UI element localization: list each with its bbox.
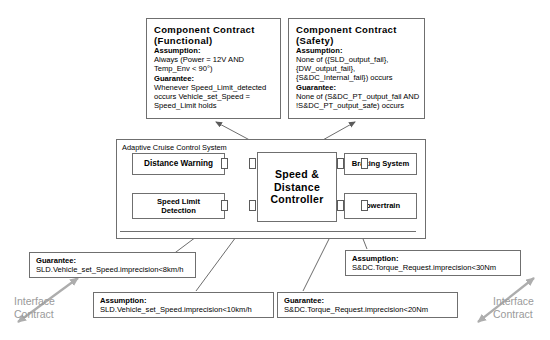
contract-title: Component Contract	[296, 24, 418, 35]
block-speed-limit-detection[interactable]: Speed Limit Detection	[132, 193, 225, 219]
label-line-1: Interface	[14, 295, 55, 307]
callout-guarantee-sdc: Guarantee: S&DC.Torque_Request.imprecisi…	[277, 292, 458, 318]
label-line-1: Speed Limit	[157, 197, 200, 206]
label-line-2: Contract	[14, 308, 54, 320]
port-dw-output[interactable]	[221, 158, 228, 169]
block-distance-warning-label: Distance Warning	[144, 159, 213, 169]
callout-heading: Guarantee:	[284, 296, 452, 305]
interface-contract-label-right: Interface Contract	[493, 295, 534, 321]
label-line-2: Detection	[161, 206, 196, 215]
label-line-2: Distance	[274, 181, 320, 193]
label-line-1: Speed &	[275, 168, 319, 180]
component-contract-safety-card: Component Contract (Safety) Assumption: …	[288, 18, 425, 119]
contract-subtitle: (Functional)	[154, 35, 274, 46]
contract-guarantee-line: !S&DC_PT_output_safe) occurs	[296, 102, 418, 111]
callout-heading: Assumption:	[100, 296, 268, 305]
callout-text: SLD.Vehicle_set_Speed.imprecision<10km/h	[100, 305, 268, 314]
callout-heading: Assumption:	[352, 254, 515, 263]
block-speed-distance-controller[interactable]: Speed & Distance Controller	[257, 152, 337, 222]
block-powertrain[interactable]: Powertrain	[344, 193, 417, 219]
contract-subtitle: (Safety)	[296, 35, 418, 46]
contract-guarantee-line: Speed_Limit holds	[154, 102, 274, 111]
port-sld-output[interactable]	[221, 200, 228, 211]
contract-assumption-line: {S&DC_Internal_fail}) occurs	[296, 74, 418, 83]
port-sdc-output-braking[interactable]	[337, 158, 344, 169]
interface-contract-label-left: Interface Contract	[14, 295, 55, 321]
callout-text: SLD.Vehicle_set_Speed.imprecision<8km/h	[36, 265, 190, 274]
component-contract-functional-card: Component Contract (Functional) Assumpti…	[146, 18, 281, 119]
block-speed-limit-detection-label: Speed Limit Detection	[157, 197, 200, 216]
callout-guarantee-sld: Guarantee: SLD.Vehicle_set_Speed.impreci…	[29, 252, 196, 278]
callout-text: S&DC.Torque_Request.imprecision<20Nm	[284, 305, 452, 314]
diagram-canvas: Component Contract (Functional) Assumpti…	[0, 0, 550, 340]
contract-assumption-line: Temp_Env < 90°)	[154, 65, 274, 74]
callout-text: S&DC.Torque_Request.imprecision<30Nm	[352, 263, 515, 272]
port-sdc-output-powertrain[interactable]	[337, 200, 344, 211]
block-distance-warning[interactable]: Distance Warning	[132, 153, 225, 175]
contract-title: Component Contract	[154, 24, 274, 35]
acc-system-label: Adaptive Cruise Control System	[122, 143, 227, 152]
block-braking-system[interactable]: Braking System	[344, 153, 417, 175]
callout-assumption-sld: Assumption: SLD.Vehicle_set_Speed.imprec…	[93, 292, 274, 318]
port-powertrain-input[interactable]	[361, 200, 368, 211]
port-braking-input[interactable]	[361, 158, 368, 169]
port-sdc-input-dw[interactable]	[249, 158, 256, 169]
port-sdc-input-sld[interactable]	[249, 200, 256, 211]
label-line-1: Interface	[493, 295, 534, 307]
block-speed-distance-controller-label: Speed & Distance Controller	[270, 168, 323, 206]
label-line-2: Contract	[493, 308, 533, 320]
callout-assumption-sdc: Assumption: S&DC.Torque_Request.imprecis…	[345, 250, 521, 276]
label-line-3: Controller	[270, 193, 323, 205]
callout-heading: Guarantee:	[36, 256, 190, 265]
